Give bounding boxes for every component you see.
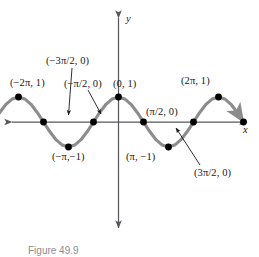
leader-line-3pi-over-2: [176, 128, 200, 165]
leader-line-neg-pi-over-2: [88, 90, 101, 114]
point-label-2pi-1: (2π, 1): [181, 76, 210, 87]
point-label-pi-neg-1: (π, −1): [126, 152, 155, 163]
point-label-neg-3pi-over-2-0: (−3π/2, 0): [46, 56, 89, 67]
data-point: [65, 144, 72, 151]
point-label-neg-2pi-1: (−2π, 1): [10, 78, 45, 89]
data-point: [165, 144, 172, 151]
x-axis-label: x: [243, 125, 248, 136]
data-point: [215, 94, 222, 101]
y-axis-label: y: [126, 14, 131, 25]
data-point: [90, 119, 97, 126]
plot-area: [0, 0, 259, 257]
leader-line-neg3pi-over-2: [69, 68, 73, 115]
figure-caption: Figure 49.9: [28, 246, 79, 257]
point-label-3pi-over-2-0: (3π/2, 0): [194, 168, 231, 179]
data-point: [15, 94, 22, 101]
point-label-neg-pi-neg-1: (−π,−1): [52, 152, 85, 163]
point-label-0-1: (0, 1): [113, 79, 136, 90]
point-label-pi-over-2-0: (π/2, 0): [146, 107, 178, 118]
data-point: [40, 119, 47, 126]
point-label-neg-pi-over-2-0: (−π/2, 0): [64, 79, 102, 90]
data-point: [190, 119, 197, 126]
data-point: [140, 119, 147, 126]
data-point: [115, 94, 122, 101]
cosine-graph-figure: (−2π, 1) (−3π/2, 0) (−π/2, 0) (0, 1) (2π…: [0, 0, 259, 257]
